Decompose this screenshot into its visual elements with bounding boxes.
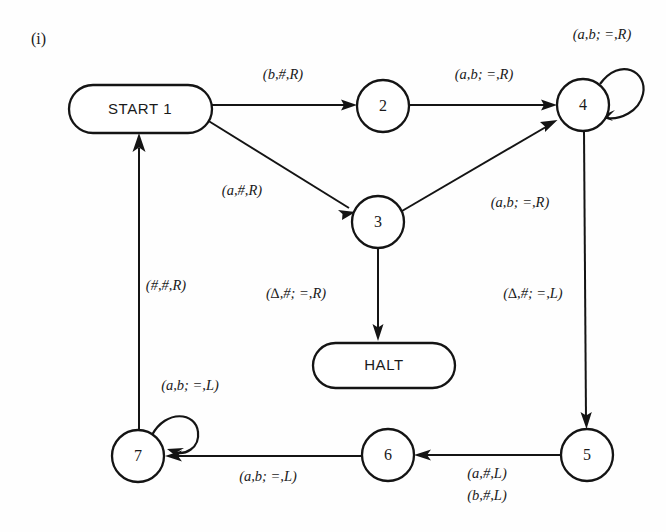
node-halt[interactable]: HALT [313,343,455,388]
edge-label-7-self-loop: (a,b; =,L) [161,377,219,394]
node-4[interactable]: 4 [557,79,609,131]
node-2[interactable]: 2 [357,80,409,132]
edge-3-to-halt [373,248,384,341]
edge-label-start-to-2: (b,#,R) [263,66,303,83]
node-7-label: 7 [134,447,142,464]
diagram-canvas: START 1 2 3 4 5 6 7 [0,0,666,532]
node-3-label: 3 [374,213,382,230]
edge-5-to-6 [414,450,561,461]
node-halt-label: HALT [364,356,404,373]
node-5-label: 5 [583,446,591,463]
edge-label-3-to-4: (a,b; =,R) [491,194,550,211]
edge-label-6-to-7: (a,b; =,L) [239,468,297,485]
node-start[interactable]: START 1 [69,85,212,133]
node-7[interactable]: 7 [112,430,164,482]
edge-label-3-to-halt: (∆,#; =,R) [266,285,326,302]
edge-label-7-to-start: (#,#,R) [146,277,186,294]
edge-label-5-to-6-alt: (b,#,L) [467,487,507,504]
node-5[interactable]: 5 [561,429,613,481]
edge-label-5-to-6: (a,#,L) [467,465,507,482]
edge-7-to-start [133,133,146,434]
turing-machine-diagram: START 1 2 3 4 5 6 7 [0,0,666,532]
edge-start-to-3 [207,120,356,220]
figure-caption: (i) [31,30,46,48]
edge-label-start-to-3: (a,#,R) [222,182,262,199]
node-3[interactable]: 3 [352,196,404,248]
edge-label-4-self-loop: (a,b; =,R) [573,26,632,43]
node-4-label: 4 [579,96,587,113]
node-2-label: 2 [379,97,387,114]
edge-6-to-7 [165,451,362,462]
edge-2-to-4 [409,100,557,111]
edge-label-2-to-4: (a,b; =,R) [455,66,514,83]
edge-4-to-5 [581,131,592,429]
node-start-label: START 1 [108,100,172,117]
edge-label-4-to-5: (∆,#; =,L) [503,285,563,302]
edge-start-to-2 [212,100,357,111]
node-6[interactable]: 6 [362,429,414,481]
node-6-label: 6 [384,446,392,463]
